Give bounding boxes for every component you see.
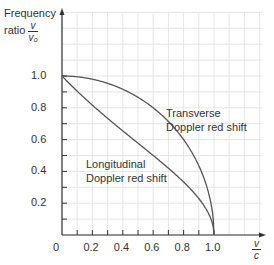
transverse-annotation: Transverse Doppler red shift — [166, 106, 247, 134]
y-tick-label: 1.0 — [31, 69, 46, 81]
x-tick-label: 0 — [53, 241, 59, 253]
x-tick-label: 1.0 — [205, 241, 220, 253]
x-tick-label: 0.6 — [144, 241, 159, 253]
longitudinal-annotation: Longitudinal Doppler red shift — [86, 157, 167, 185]
y-tick-label: 0.2 — [31, 196, 46, 208]
y-tick-label: 0.4 — [31, 164, 46, 176]
y-tick-label: 0.6 — [31, 133, 46, 145]
x-tick-label: 0.4 — [114, 241, 129, 253]
y-axis-fraction: v v₀ — [28, 20, 37, 43]
y-axis-label: Frequency ratio v v₀ — [4, 6, 56, 43]
x-axis-label: v c — [252, 238, 261, 261]
x-tick-label: 0.8 — [175, 241, 190, 253]
x-tick-label: 0.2 — [83, 241, 98, 253]
y-tick-label: 0.8 — [31, 101, 46, 113]
